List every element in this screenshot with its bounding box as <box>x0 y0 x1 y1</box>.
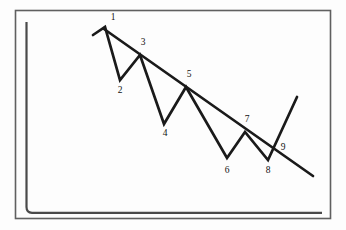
chart-figure: 1 2 3 4 5 6 7 8 9 <box>0 0 346 230</box>
wave-label-2: 2 <box>118 85 123 95</box>
wave-label-3: 3 <box>141 37 146 47</box>
wave-label-7: 7 <box>245 114 250 124</box>
wave-label-4: 4 <box>163 128 168 138</box>
wave-label-6: 6 <box>225 165 230 175</box>
figure-frame <box>16 11 331 219</box>
wave-label-1: 1 <box>111 12 116 22</box>
wave-label-8: 8 <box>266 165 271 175</box>
wave-label-9: 9 <box>281 142 286 152</box>
wave-label-5: 5 <box>187 69 192 79</box>
chart-canvas: 1 2 3 4 5 6 7 8 9 <box>0 0 346 230</box>
x-axis-line <box>27 207 323 213</box>
downtrend-resistance-line <box>104 29 313 176</box>
